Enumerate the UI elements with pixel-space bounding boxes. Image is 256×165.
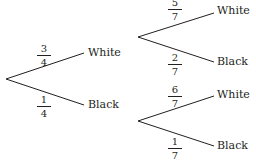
numerator: 1 xyxy=(168,137,182,147)
fraction-bar xyxy=(168,64,182,65)
prob-second-white-white: 5 7 xyxy=(168,0,182,22)
denominator: 7 xyxy=(168,151,182,161)
outcome-second-black-white: White xyxy=(217,89,250,100)
numerator: 3 xyxy=(37,44,51,54)
fraction-bar xyxy=(168,96,182,97)
denominator: 7 xyxy=(168,12,182,22)
numerator: 5 xyxy=(168,0,182,8)
denominator: 4 xyxy=(37,58,51,68)
outcome-first-black: Black xyxy=(88,99,119,110)
numerator: 6 xyxy=(168,85,182,95)
outcome-second-black-black: Black xyxy=(217,140,248,151)
fraction-bar xyxy=(37,55,51,56)
prob-second-black-black: 1 7 xyxy=(168,137,182,161)
outcome-second-white-white: White xyxy=(217,5,250,16)
denominator: 7 xyxy=(168,99,182,109)
fraction-bar xyxy=(168,148,182,149)
numerator: 1 xyxy=(37,95,51,105)
denominator: 7 xyxy=(168,67,182,77)
prob-first-black: 1 4 xyxy=(37,95,51,119)
outcome-first-white: White xyxy=(88,47,121,58)
prob-second-white-black: 2 7 xyxy=(168,53,182,77)
fraction-bar xyxy=(168,9,182,10)
prob-second-black-white: 6 7 xyxy=(168,85,182,109)
fraction-bar xyxy=(37,106,51,107)
prob-first-white: 3 4 xyxy=(37,44,51,68)
denominator: 4 xyxy=(37,109,51,119)
outcome-second-white-black: Black xyxy=(217,56,248,67)
numerator: 2 xyxy=(168,53,182,63)
